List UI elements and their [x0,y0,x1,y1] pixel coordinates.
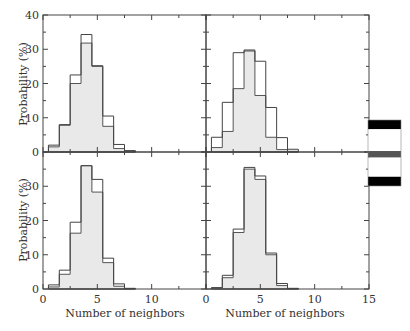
legend-color-bar [368,120,401,186]
filled-histogram [211,50,298,152]
x-tick-label: 10 [308,293,322,306]
panel-top-left [48,35,135,152]
y-tick-label: 0 [32,146,39,159]
x-axis-label-right: Number of neighbors [225,307,345,320]
panel-frame [206,152,369,289]
x-axis-label-left: Number of neighbors [65,307,185,320]
y-tick-label: 40 [25,9,39,22]
y-tick-label: 0 [32,283,39,296]
legend-segment [368,129,401,151]
legend-segment [368,151,401,158]
y-axis-label-top: Probability (%) [17,42,30,126]
x-tick-label: 5 [257,293,264,306]
legend-segment [368,177,401,186]
figure: 01020304001020300510051015 Probability (… [0,0,410,331]
panels [48,35,298,289]
panel-bottom-right [211,167,298,289]
panel-top-right [211,50,298,152]
x-tick-label: 0 [40,293,47,306]
x-tick-label: 0 [203,293,210,306]
filled-histogram [211,169,298,289]
x-tick-label: 15 [362,293,376,306]
legend-segment [368,158,401,177]
x-tick-label: 10 [145,293,159,306]
y-axis-label-bottom: Probability (%) [17,178,30,262]
panel-bottom-left [48,166,135,289]
legend-segment [368,120,401,129]
panel-frame [43,152,206,289]
x-tick-label: 5 [94,293,101,306]
